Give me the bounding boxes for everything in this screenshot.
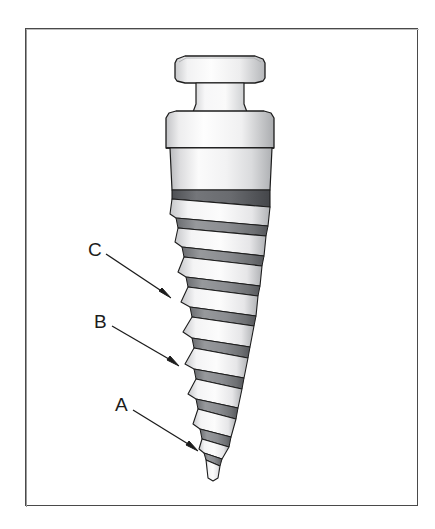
label-c: C xyxy=(88,240,102,259)
leader-arrow-b xyxy=(112,326,179,366)
leader-arrow-a xyxy=(133,410,198,451)
label-a: A xyxy=(115,395,128,414)
screw-head-group xyxy=(166,56,274,148)
smooth-shaft xyxy=(170,148,272,190)
label-b: B xyxy=(94,312,107,331)
leader-arrow-c xyxy=(106,254,171,298)
implant-screw-illustration xyxy=(0,0,435,529)
smooth-shaft-group xyxy=(170,148,272,190)
head-cap xyxy=(175,56,265,83)
neck xyxy=(193,83,247,112)
collar xyxy=(166,111,274,148)
leader-arrows-group xyxy=(106,254,198,451)
threaded-body-group xyxy=(170,190,270,481)
figure-page: C B A xyxy=(0,0,435,529)
